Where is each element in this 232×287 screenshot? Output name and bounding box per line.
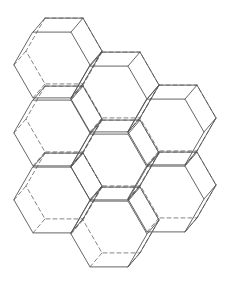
front-faces [14,32,204,267]
hexagonal-prism-diagram [0,0,232,287]
depth-edge [33,18,45,32]
depth-edge [147,85,159,99]
depth-edge [71,18,83,32]
depth-edge [90,52,102,66]
depth-edge [90,51,102,65]
depth-edge [128,52,140,66]
back-upper-right-edge [197,85,216,118]
depth-edge [204,185,216,199]
back-upper-right-edge [197,152,216,185]
diagram-svg [0,0,232,287]
depth-edge [204,118,216,132]
back-upper-right-edge [83,18,102,51]
depth-edge [185,85,197,99]
back-upper-right-edge [140,52,159,85]
